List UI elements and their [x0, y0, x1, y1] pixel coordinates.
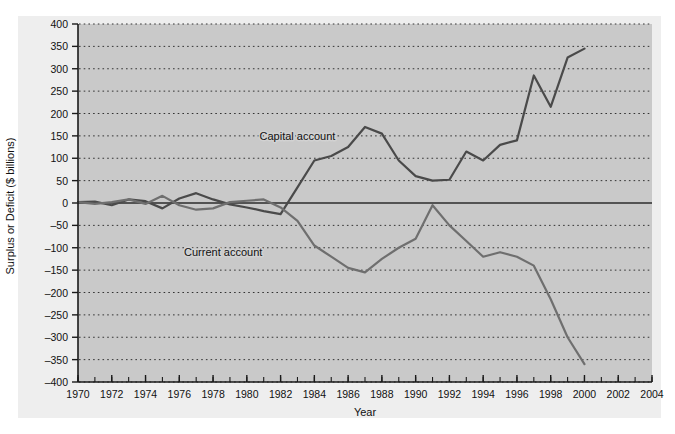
y-tick-label: –150 — [45, 264, 69, 276]
y-tick-label: 300 — [50, 63, 68, 75]
y-tick-label: –350 — [45, 354, 69, 366]
x-tick-label: 2000 — [573, 388, 597, 400]
y-tick-label: –200 — [45, 287, 69, 299]
x-tick-label: 2004 — [640, 388, 664, 400]
y-tick-label: 200 — [50, 108, 68, 120]
x-tick-label: 1988 — [370, 388, 394, 400]
y-tick-label: 50 — [56, 175, 68, 187]
x-tick-label: 1972 — [100, 388, 124, 400]
x-tick-label: 1982 — [269, 388, 293, 400]
x-tick-label: 1974 — [134, 388, 158, 400]
y-tick-label: 350 — [50, 40, 68, 52]
y-tick-label: 100 — [50, 152, 68, 164]
y-tick-label: –400 — [45, 376, 69, 388]
x-tick-label: 1998 — [539, 388, 563, 400]
chart-canvas: 400350300250200150100500–50–100–150–200–… — [0, 0, 675, 434]
x-tick-label: 1986 — [336, 388, 360, 400]
x-tick-label: 1976 — [168, 388, 192, 400]
x-tick-label: 1970 — [66, 388, 90, 400]
y-tick-label: 400 — [50, 18, 68, 30]
y-tick-label: –250 — [45, 309, 69, 321]
y-tick-label: –50 — [50, 219, 68, 231]
x-axis-title: Year — [354, 406, 377, 418]
x-tick-label: 1980 — [235, 388, 259, 400]
x-tick-label: 1996 — [505, 388, 529, 400]
balance-of-payments-chart: 400350300250200150100500–50–100–150–200–… — [0, 0, 675, 434]
x-tick-label: 1992 — [438, 388, 462, 400]
x-tick-label: 1994 — [471, 388, 495, 400]
series-label: Current account — [184, 246, 262, 258]
x-tick-label: 1984 — [303, 388, 327, 400]
y-tick-label: 150 — [50, 130, 68, 142]
series-label: Capital account — [260, 130, 336, 142]
y-tick-label: 0 — [62, 197, 68, 209]
x-tick-label: 2002 — [607, 388, 631, 400]
y-tick-label: –300 — [45, 331, 69, 343]
x-tick-label: 1978 — [201, 388, 225, 400]
y-axis-title: Surplus or Deficit ($ billions) — [4, 138, 16, 275]
x-tick-label: 1990 — [404, 388, 428, 400]
y-tick-label: –100 — [45, 242, 69, 254]
y-tick-label: 250 — [50, 85, 68, 97]
